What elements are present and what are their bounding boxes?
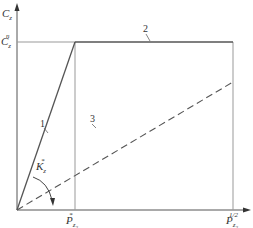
y-axis-arrow-icon: [15, 3, 20, 11]
cz-n-sub: z: [8, 42, 11, 50]
y-axis-label: Cz: [2, 8, 12, 22]
x-axis-arrow-icon: [243, 208, 251, 213]
diagram-canvas: [0, 0, 253, 228]
curve-3-leader: [92, 124, 96, 128]
p-star-sup: *: [69, 211, 73, 219]
curve-2-leader: [146, 34, 150, 41]
kz-sub: z: [43, 167, 46, 175]
p-half-label: Pz21/2: [226, 214, 247, 228]
kz-sup: *: [41, 157, 45, 165]
curve-1-label: 1: [40, 119, 45, 129]
cz-n-label: Czn: [1, 35, 15, 50]
angle-arc: [33, 177, 52, 200]
curve-3: [17, 82, 233, 210]
p-half-sub: z2: [233, 221, 238, 228]
y-axis-label-sub: z: [9, 14, 12, 22]
curve-2-label: 2: [143, 24, 148, 34]
angle-arrow-icon: [50, 198, 55, 206]
curve-1: [17, 42, 75, 210]
p-star-sub: z2: [73, 221, 78, 228]
p-star-label: Pz2*: [66, 214, 81, 228]
curve-3-label: 3: [90, 114, 95, 124]
kz-star-label: Kz*: [36, 160, 50, 175]
p-half-sup: 1/2: [229, 211, 238, 219]
cz-n-sup: n: [6, 32, 10, 40]
